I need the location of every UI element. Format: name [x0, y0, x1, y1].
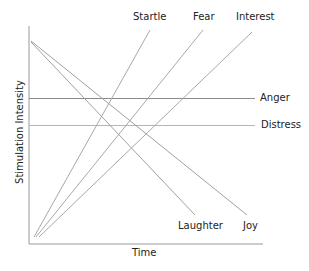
startle-line [34, 30, 150, 237]
interest-label: Interest [236, 12, 275, 22]
laughter-label: Laughter [178, 221, 223, 231]
joy-line [31, 41, 247, 215]
x-axis-label: Time [132, 248, 156, 258]
y-axis-label: Stimulation Intensity [15, 77, 25, 187]
joy-label: Joy [243, 221, 258, 231]
fear-label: Fear [193, 12, 215, 22]
laughter-line [31, 42, 195, 215]
startle-label: Startle [133, 12, 166, 22]
interest-line [39, 32, 252, 237]
anger-label: Anger [260, 93, 290, 103]
distress-label: Distress [261, 120, 301, 130]
diagram-canvas [0, 0, 309, 271]
fear-line [36, 30, 203, 237]
